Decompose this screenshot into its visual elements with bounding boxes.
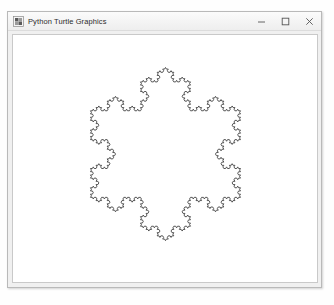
- python-turtle-icon: [13, 16, 24, 27]
- koch-snowflake-path: [90, 67, 240, 240]
- window-titlebar[interactable]: Python Turtle Graphics: [8, 12, 321, 31]
- maximize-icon: [280, 16, 291, 27]
- close-button[interactable]: [297, 12, 321, 31]
- turtle-graphics-window: Python Turtle Graphics: [7, 11, 322, 288]
- minimize-icon: [256, 16, 267, 27]
- screenshot-root: Python Turtle Graphics: [0, 0, 334, 305]
- maximize-button[interactable]: [273, 12, 297, 31]
- window-title-text: Python Turtle Graphics: [28, 17, 107, 26]
- turtle-drawing-surface: [13, 35, 317, 282]
- close-icon: [304, 16, 315, 27]
- minimize-button[interactable]: [249, 12, 273, 31]
- turtle-canvas-area[interactable]: [12, 34, 318, 283]
- window-controls: [249, 12, 321, 31]
